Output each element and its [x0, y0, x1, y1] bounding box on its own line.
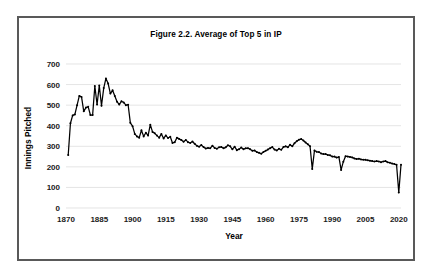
data-point [78, 95, 80, 97]
y-tick-label: 300 [47, 142, 61, 151]
data-point [200, 144, 202, 146]
data-point [391, 163, 393, 165]
data-point [160, 133, 162, 135]
data-point [311, 168, 313, 170]
data-point [101, 105, 103, 107]
data-point [220, 146, 222, 148]
y-tick-label: 200 [47, 163, 61, 172]
x-tick-label: 1915 [157, 215, 175, 224]
data-point [216, 148, 218, 150]
x-tick-label: 1990 [323, 215, 341, 224]
x-tick-label: 2020 [390, 215, 408, 224]
data-point [87, 106, 89, 108]
x-tick-label: 1945 [223, 215, 241, 224]
series-markers-group [67, 77, 402, 193]
data-point [169, 136, 171, 138]
data-point [67, 154, 69, 156]
data-point [205, 148, 207, 150]
data-point [167, 137, 169, 139]
data-point [267, 149, 269, 151]
data-point [338, 156, 340, 158]
data-point [294, 142, 296, 144]
data-point [291, 145, 293, 147]
data-point [393, 163, 395, 165]
data-point [114, 95, 116, 97]
data-point [333, 156, 335, 158]
data-point [276, 149, 278, 151]
y-tick-label: 700 [47, 60, 61, 69]
data-point [85, 107, 87, 109]
data-point [378, 161, 380, 163]
data-point [318, 151, 320, 153]
data-point [129, 122, 131, 124]
data-point [305, 142, 307, 144]
data-point [176, 137, 178, 139]
data-point [236, 149, 238, 151]
data-point [307, 143, 309, 145]
data-point [287, 146, 289, 148]
data-point [96, 104, 98, 106]
data-point [240, 147, 242, 149]
data-point [365, 159, 367, 161]
data-point [103, 87, 105, 89]
data-point [280, 149, 282, 151]
x-tick-label: 1960 [257, 215, 275, 224]
data-point [376, 160, 378, 162]
data-point [320, 152, 322, 154]
data-point [72, 114, 74, 116]
data-point [271, 146, 273, 148]
data-point [69, 122, 71, 124]
data-point [336, 157, 338, 159]
data-point [134, 133, 136, 135]
data-point [152, 131, 154, 133]
x-tick-label: 1885 [90, 215, 108, 224]
data-point [203, 146, 205, 148]
y-axis-title: Innings Pitched [23, 107, 33, 169]
data-point [138, 137, 140, 139]
data-point [367, 159, 369, 161]
data-point [140, 129, 142, 131]
data-point [258, 152, 260, 154]
data-point [112, 89, 114, 91]
data-point [185, 139, 187, 141]
data-point [214, 147, 216, 149]
data-point [265, 150, 267, 152]
y-tick-labels-group: 0100200300400500600700 [47, 60, 61, 213]
x-tick-label: 1975 [290, 215, 308, 224]
y-tick-label: 100 [47, 183, 61, 192]
data-point [218, 146, 220, 148]
data-point [327, 154, 329, 156]
data-point [282, 146, 284, 148]
data-point [163, 137, 165, 139]
data-point [187, 141, 189, 143]
data-point [251, 150, 253, 152]
data-point [107, 83, 109, 85]
data-point [74, 113, 76, 115]
data-point [209, 147, 211, 149]
data-point [274, 149, 276, 151]
data-point [249, 148, 251, 150]
data-point [285, 145, 287, 147]
line-chart-plot: 0100200300400500600700 18701885190019151… [19, 18, 413, 259]
data-point [145, 132, 147, 134]
data-point [296, 140, 298, 142]
data-point [351, 156, 353, 158]
data-point [198, 146, 200, 148]
data-point [349, 156, 351, 158]
data-point [191, 141, 193, 143]
data-point [174, 141, 176, 143]
x-tick-label: 1900 [124, 215, 142, 224]
data-point [171, 142, 173, 144]
data-point [325, 153, 327, 155]
data-point [254, 149, 256, 151]
data-point [105, 77, 107, 79]
data-point [269, 147, 271, 149]
data-point [389, 162, 391, 164]
x-tick-labels-group: 1870188519001915193019451960197519902005… [57, 215, 408, 224]
data-point [120, 100, 122, 102]
data-point [125, 104, 127, 106]
data-point [345, 155, 347, 157]
data-point [147, 135, 149, 137]
x-tick-label: 1870 [57, 215, 75, 224]
data-point [400, 164, 402, 166]
